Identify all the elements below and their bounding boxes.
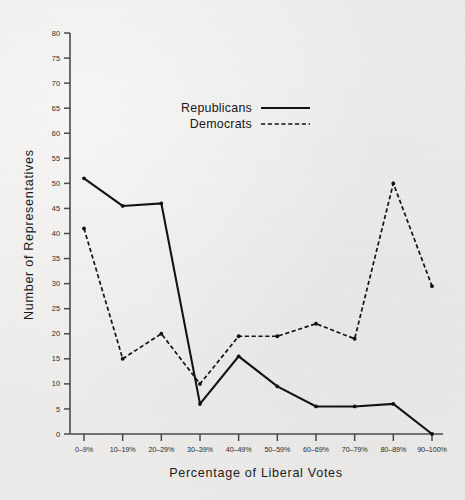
- line-chart: Number of Representatives 05101520253035…: [0, 0, 465, 500]
- y-tick-label: 30: [52, 279, 60, 288]
- data-point: [82, 227, 86, 231]
- data-point: [275, 384, 279, 388]
- data-point: [275, 334, 279, 338]
- legend-label-democrats: Democrats: [190, 117, 252, 131]
- y-tick-label: 80: [52, 29, 60, 38]
- data-point: [391, 181, 395, 185]
- x-tick-label: 20–29%: [148, 445, 174, 454]
- y-tick-label: 60: [52, 129, 60, 138]
- y-tick-label: 10: [52, 379, 60, 388]
- data-point: [391, 402, 395, 406]
- chart-figure: Number of Representatives 05101520253035…: [0, 0, 465, 500]
- data-point: [353, 337, 357, 341]
- y-tick-label: 65: [52, 104, 60, 113]
- y-tick-label: 40: [52, 229, 60, 238]
- data-point: [82, 176, 86, 180]
- series-line-democrats: [84, 183, 432, 384]
- data-point: [353, 405, 357, 409]
- y-tick-label: 25: [52, 304, 60, 313]
- legend-label-republicans: Republicans: [181, 101, 252, 115]
- y-tick-label: 20: [52, 329, 60, 338]
- data-point: [198, 382, 202, 386]
- chart-legend: Republicans Democrats: [181, 101, 310, 131]
- y-tick-label: 45: [52, 204, 60, 213]
- y-tick-label: 70: [52, 79, 60, 88]
- y-tick-label: 75: [52, 54, 60, 63]
- series-layer: [82, 176, 434, 435]
- data-point: [159, 202, 163, 206]
- y-tick-label: 0: [56, 430, 60, 439]
- data-point: [237, 354, 241, 358]
- x-axis-ticks: 0–9%10–19%20–29%30–39%40–49%50–59%60–69%…: [75, 434, 448, 454]
- data-point: [430, 284, 434, 288]
- y-tick-label: 50: [52, 179, 60, 188]
- y-axis-title: Number of Representatives: [22, 149, 36, 320]
- x-tick-label: 70–79%: [342, 445, 368, 454]
- y-axis-ticks: 05101520253035404550556065707580: [52, 29, 70, 439]
- x-tick-label: 50–59%: [264, 445, 290, 454]
- data-point: [314, 322, 318, 326]
- data-point: [237, 334, 241, 338]
- x-tick-label: 30–39%: [187, 445, 213, 454]
- x-axis-title: Percentage of Liberal Votes: [169, 466, 343, 480]
- data-point: [159, 332, 163, 336]
- x-tick-label: 60–69%: [303, 445, 329, 454]
- data-point: [121, 204, 125, 208]
- data-point: [314, 405, 318, 409]
- data-point: [121, 357, 125, 361]
- x-tick-label: 40–49%: [226, 445, 252, 454]
- y-tick-label: 35: [52, 254, 60, 263]
- y-tick-label: 15: [52, 354, 60, 363]
- y-tick-label: 55: [52, 154, 60, 163]
- x-tick-label: 80–89%: [380, 445, 406, 454]
- x-tick-label: 90–100%: [417, 445, 447, 454]
- y-tick-label: 5: [56, 405, 60, 414]
- x-tick-label: 10–19%: [110, 445, 136, 454]
- data-point: [430, 432, 434, 436]
- data-point: [198, 402, 202, 406]
- series-line-republicans: [84, 178, 432, 434]
- x-tick-label: 0–9%: [75, 445, 94, 454]
